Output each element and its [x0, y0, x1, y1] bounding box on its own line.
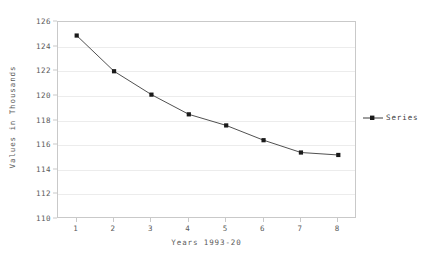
line-chart: Values in Thousands 11011211411611812012…	[0, 0, 432, 266]
y-tick-label: 112	[11, 189, 51, 198]
x-tick-label: 4	[173, 224, 203, 233]
legend-line-marker-icon	[363, 114, 383, 122]
y-tick-label: 116	[11, 140, 51, 149]
x-tick-label: 7	[285, 224, 315, 233]
y-tick-label: 122	[11, 66, 51, 75]
y-tick-label: 110	[11, 214, 51, 223]
data-point-marker	[187, 112, 191, 116]
series-line	[77, 36, 339, 155]
y-tick-label: 118	[11, 115, 51, 124]
data-point-marker	[224, 123, 228, 127]
y-tick-label: 120	[11, 90, 51, 99]
x-axis-title: Years 1993-20	[57, 238, 356, 247]
legend-entry-label: Series	[386, 113, 419, 122]
x-tick-label: 1	[61, 224, 91, 233]
y-tick-label: 114	[11, 164, 51, 173]
series-plot	[58, 22, 357, 219]
x-tick-label: 6	[248, 224, 278, 233]
data-point-marker	[149, 93, 153, 97]
x-tick-label: 3	[135, 224, 165, 233]
data-point-marker	[112, 69, 116, 73]
plot-area	[57, 21, 356, 218]
data-point-marker	[75, 33, 79, 37]
data-point-marker	[299, 150, 303, 154]
y-tick-label: 124	[11, 41, 51, 50]
data-point-marker	[261, 138, 265, 142]
x-tick-label: 8	[322, 224, 352, 233]
x-tick-label: 5	[210, 224, 240, 233]
y-tick-label: 126	[11, 17, 51, 26]
x-tick-label: 2	[98, 224, 128, 233]
data-point-marker	[336, 153, 340, 157]
chart-legend: Series	[363, 113, 419, 122]
